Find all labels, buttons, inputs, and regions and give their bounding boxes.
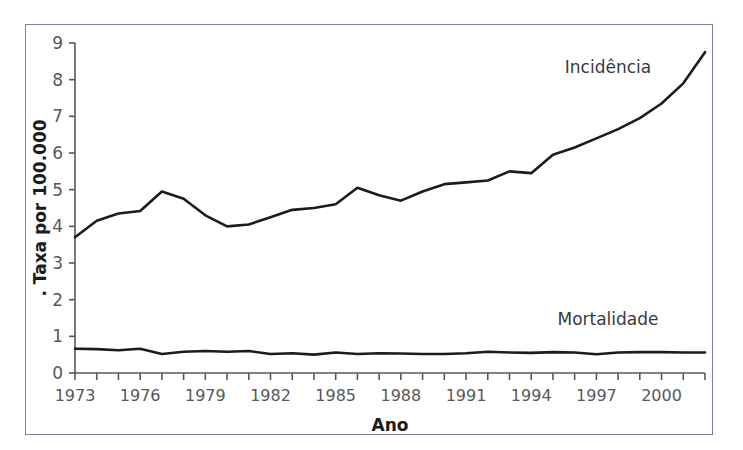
x-axis-tick-labels: 1973197619791982198519881991199419972000	[55, 386, 682, 405]
y-tick-label: 5	[52, 180, 63, 200]
series-line-incidência	[75, 52, 705, 237]
y-tick-label: 1	[52, 326, 63, 346]
y-tick-label: 7	[52, 106, 63, 126]
y-tick-label: 3	[52, 253, 63, 273]
y-tick-label: 4	[52, 216, 63, 236]
y-tick-label: 8	[52, 70, 63, 90]
line-chart-canvas: 0123456789 19731976197919821985198819911…	[26, 25, 712, 434]
y-tick-label: 0	[52, 363, 63, 383]
x-tick-label: 1973	[55, 386, 96, 405]
x-tick-label: 1976	[120, 386, 161, 405]
series-annotations: IncidênciaMortalidade	[557, 57, 658, 329]
x-tick-label: 1979	[185, 386, 226, 405]
y-tick-label: 6	[52, 143, 63, 163]
x-tick-label: 1982	[250, 386, 291, 405]
y-tick-label: 2	[52, 290, 63, 310]
series-line-mortalidade	[75, 349, 705, 355]
chart-figure: 0123456789 19731976197919821985198819911…	[25, 24, 713, 435]
y-tick-label: 9	[52, 33, 63, 53]
x-tick-label: 1991	[446, 386, 487, 405]
series-label-incidência: Incidência	[565, 57, 651, 77]
y-axis-tick-labels: 0123456789	[52, 33, 63, 383]
y-axis-ticks	[69, 43, 75, 373]
series-label-mortalidade: Mortalidade	[557, 309, 658, 329]
x-tick-label: 2000	[641, 386, 682, 405]
x-tick-label: 1985	[315, 386, 356, 405]
x-axis-title: Ano	[372, 415, 409, 434]
y-axis-title: . Taxa por 100.000	[30, 119, 50, 296]
x-axis-ticks	[75, 373, 705, 380]
x-tick-label: 1997	[576, 386, 617, 405]
x-tick-label: 1994	[511, 386, 552, 405]
x-tick-label: 1988	[381, 386, 422, 405]
